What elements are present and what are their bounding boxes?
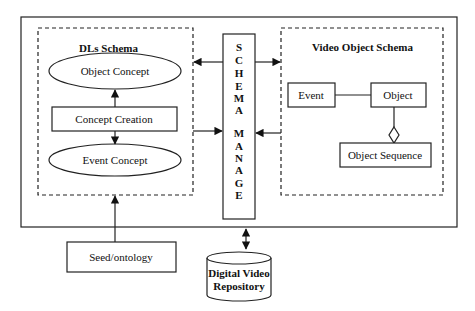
- architecture-diagram: DLs Schema Object Concept Concept Creati…: [0, 0, 475, 311]
- object-node: Object: [371, 83, 426, 107]
- schema-manage-letter: E: [235, 189, 242, 201]
- repository-label-line2: Repository: [213, 280, 265, 292]
- schema-manage-letter: E: [235, 80, 242, 92]
- event-concept-label: Event Concept: [82, 154, 147, 166]
- schema-manage-letter: A: [235, 104, 243, 116]
- event-node: Event: [288, 83, 335, 107]
- schema-manage-letter: A: [235, 164, 243, 176]
- event-concept-node: Event Concept: [49, 144, 181, 176]
- repository-label-line1: Digital Video: [208, 267, 270, 279]
- schema-manage-letter: S: [236, 41, 242, 53]
- object-concept-node: Object Concept: [49, 53, 181, 89]
- digital-video-repository-node: Digital Video Repository: [207, 252, 271, 301]
- schema-manage-letter: C: [235, 54, 243, 66]
- schema-manage-letter: A: [235, 140, 243, 152]
- event-label: Event: [298, 89, 324, 101]
- schema-manage-node: S C H E M A M A N A G E: [223, 34, 255, 219]
- schema-manage-letter: M: [234, 127, 245, 139]
- object-label: Object: [383, 89, 412, 101]
- seed-ontology-node: Seed/ontology: [67, 242, 176, 272]
- schema-manage-letter: H: [235, 67, 244, 79]
- schema-manage-letter: G: [235, 177, 244, 189]
- dls-schema-title: DLs Schema: [79, 42, 138, 54]
- video-object-schema-title: Video Object Schema: [312, 41, 414, 53]
- object-sequence-node: Object Sequence: [340, 143, 431, 167]
- concept-creation-label: Concept Creation: [75, 113, 153, 125]
- object-sequence-label: Object Sequence: [348, 149, 422, 161]
- schema-manage-letter: M: [234, 92, 245, 104]
- schema-manage-letter: N: [235, 152, 243, 164]
- object-concept-label: Object Concept: [81, 65, 150, 77]
- concept-creation-node: Concept Creation: [52, 107, 177, 131]
- seed-ontology-label: Seed/ontology: [89, 251, 153, 263]
